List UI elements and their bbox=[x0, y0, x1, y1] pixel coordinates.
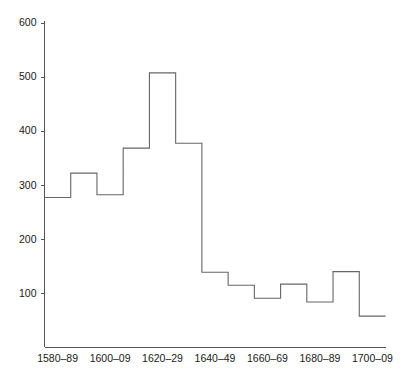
histogram-step-outline bbox=[45, 73, 386, 316]
chart-canvas: 100200300400500600 1580–891600–091620–29… bbox=[0, 0, 404, 375]
x-tick-label: 1700–09 bbox=[352, 352, 393, 364]
y-axis-ticks: 100200300400500600 bbox=[19, 16, 45, 299]
x-tick-label: 1660–69 bbox=[247, 352, 288, 364]
x-tick-label: 1640–49 bbox=[195, 352, 236, 364]
y-tick-label: 200 bbox=[19, 233, 37, 245]
y-tick-label: 600 bbox=[19, 16, 37, 28]
x-tick-label: 1680–89 bbox=[299, 352, 340, 364]
y-tick-label: 100 bbox=[19, 287, 37, 299]
y-tick-label: 500 bbox=[19, 70, 37, 82]
histogram-chart: 100200300400500600 1580–891600–091620–29… bbox=[0, 0, 404, 375]
x-axis-ticks: 1580–891600–091620–291640–491660–691680–… bbox=[37, 352, 393, 364]
y-tick-label: 400 bbox=[19, 124, 37, 136]
x-tick-label: 1580–89 bbox=[37, 352, 78, 364]
x-tick-label: 1600–09 bbox=[90, 352, 131, 364]
x-tick-label: 1620–29 bbox=[142, 352, 183, 364]
y-tick-label: 300 bbox=[19, 179, 37, 191]
